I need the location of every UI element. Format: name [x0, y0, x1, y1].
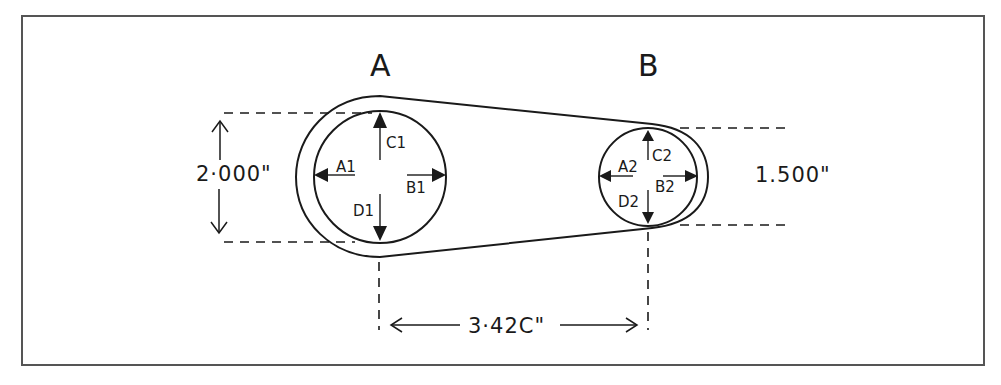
point-a2-label: A2: [618, 158, 638, 176]
point-d1-label: D1: [353, 202, 374, 220]
point-c1-label: C1: [386, 134, 406, 152]
dimension-arrow-a-down: [211, 189, 227, 233]
dimension-arrow-a-up: [212, 121, 228, 160]
pulley-a-label: A: [370, 48, 391, 83]
point-b1-label: B1: [406, 179, 426, 197]
center-distance-dimension: 3·42C": [468, 314, 545, 338]
dimension-arrow-right: [560, 318, 637, 332]
pulley-b-label: B: [638, 48, 659, 83]
point-d2-label: D2: [618, 193, 639, 211]
arrow-d2: [642, 190, 654, 224]
arrow-c1: [373, 112, 387, 160]
diameter-b-dimension: 1.500": [755, 163, 831, 187]
point-b2-label: B2: [655, 178, 675, 196]
belt-drive-diagram: A B 2·000" 1.500" 3·42C" C1 A1 B1 D1 C2 …: [0, 0, 1001, 385]
point-c2-label: C2: [652, 147, 672, 165]
dimension-arrow-left: [391, 318, 460, 332]
point-a1-label: A1: [336, 158, 356, 176]
arrow-d1: [373, 194, 387, 241]
diameter-a-dimension: 2·000": [196, 162, 272, 186]
link-outline: [296, 96, 708, 257]
